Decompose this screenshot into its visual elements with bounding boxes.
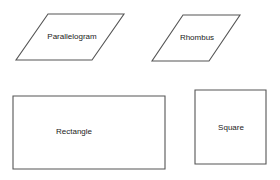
- rhombus-shape: Rhombus: [152, 15, 240, 61]
- square-label: Square: [218, 123, 244, 132]
- rectangle-label: Rectangle: [56, 127, 93, 136]
- parallelogram-label: Parallelogram: [47, 32, 97, 41]
- shapes-diagram: Parallelogram Rhombus Rectangle Square: [0, 0, 280, 180]
- rectangle-shape: Rectangle: [13, 96, 165, 169]
- rhombus-label: Rhombus: [180, 33, 214, 42]
- square-shape: Square: [195, 90, 266, 164]
- parallelogram-shape: Parallelogram: [16, 14, 124, 60]
